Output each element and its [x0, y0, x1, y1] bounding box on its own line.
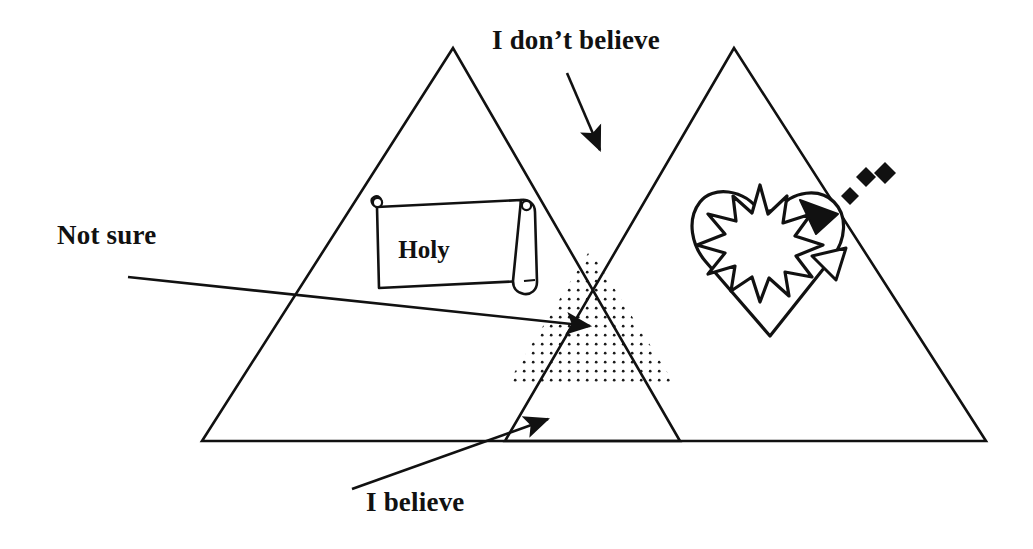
label-dont-believe: I don’t believe [492, 27, 660, 54]
scroll-icon [372, 196, 537, 294]
label-not-sure: Not sure [57, 222, 156, 249]
venn-diagram-svg: Holy [0, 0, 1033, 549]
scroll-label-holy: Holy [398, 236, 450, 263]
diagram-canvas: Holy I don’t believe Not sure I believe [0, 0, 1033, 549]
label-i-believe: I believe [366, 489, 465, 516]
dont-believe-arrow [567, 73, 600, 150]
dash-1 [841, 187, 859, 205]
i-believe-arrow [352, 419, 548, 489]
